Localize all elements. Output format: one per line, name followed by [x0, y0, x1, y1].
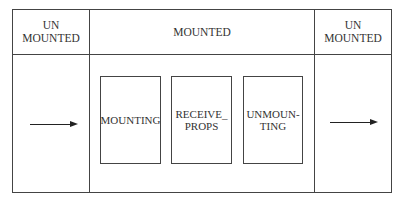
header-mounted: MOUNTED — [90, 10, 314, 54]
header-unmounted-right: UN MOUNTED — [315, 10, 391, 54]
arrow-right-icon — [330, 117, 380, 127]
phase-mounting: MOUNTING — [100, 76, 161, 164]
phase-receive-props: RECEIVE_ PROPS — [171, 76, 232, 164]
header-unmounted-left: UN MOUNTED — [13, 10, 89, 54]
phase-unmounting: UNMOUN- TING — [243, 76, 303, 164]
arrow-right-icon — [30, 119, 78, 129]
header-divider — [12, 54, 392, 55]
